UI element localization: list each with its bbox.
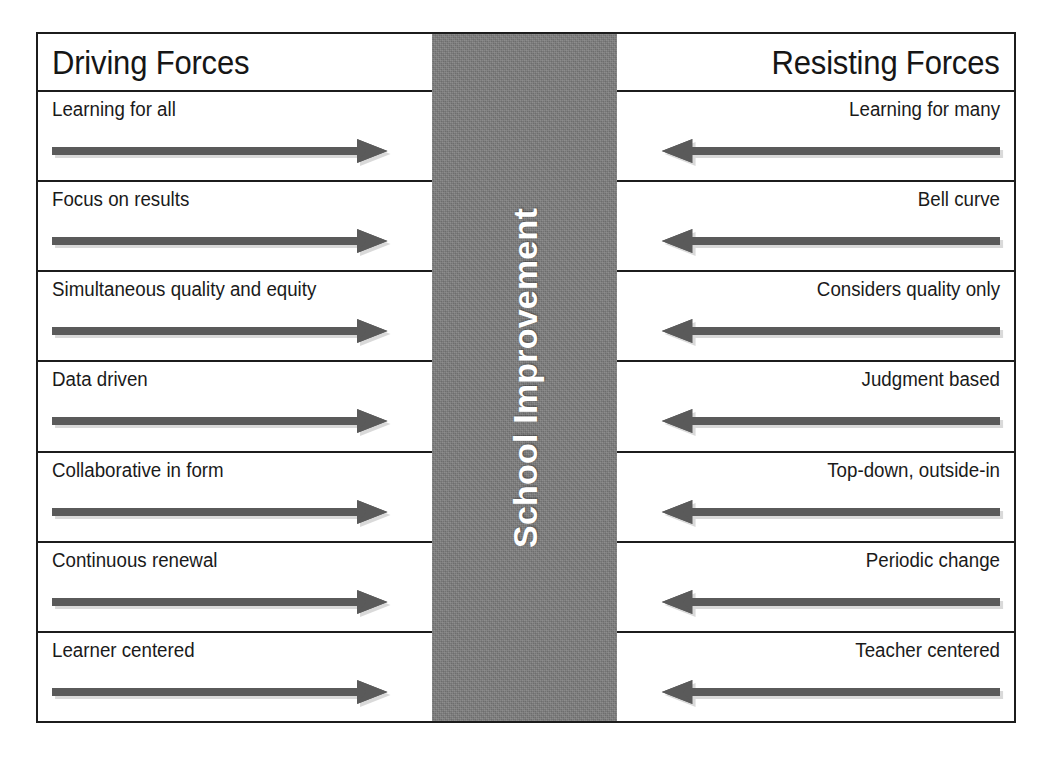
arrow-right-icon	[52, 226, 418, 260]
resisting-force-label: Bell curve	[646, 188, 1000, 210]
driving-forces-header: Driving Forces	[38, 34, 432, 92]
resisting-force-row: Teacher centered	[617, 633, 1014, 721]
force-field-diagram: Driving Forces Learning for all Focus on…	[36, 32, 1016, 723]
arrow-right-icon	[52, 406, 418, 440]
resisting-force-row: Top-down, outside-in	[617, 453, 1014, 543]
resisting-force-row: Bell curve	[617, 182, 1014, 272]
resisting-forces-column: Resisting Forces Learning for many Bell …	[617, 34, 1014, 721]
center-band-label: School Improvement	[505, 208, 544, 548]
resisting-force-row: Periodic change	[617, 543, 1014, 633]
resisting-force-label: Teacher centered	[646, 639, 1000, 661]
driving-force-label: Learner centered	[52, 639, 403, 661]
resisting-force-label: Learning for many	[646, 98, 1000, 120]
driving-force-row: Learning for all	[38, 92, 432, 182]
resisting-force-label: Top-down, outside-in	[646, 459, 1000, 481]
driving-force-label: Continuous renewal	[52, 549, 403, 571]
driving-forces-column: Driving Forces Learning for all Focus on…	[38, 34, 432, 721]
driving-force-label: Simultaneous quality and equity	[52, 278, 403, 300]
arrow-left-icon	[631, 136, 1000, 170]
driving-force-row: Data driven	[38, 362, 432, 452]
driving-force-row: Continuous renewal	[38, 543, 432, 633]
arrow-right-icon	[52, 316, 418, 350]
resisting-force-label: Judgment based	[646, 368, 1000, 390]
arrow-left-icon	[631, 316, 1000, 350]
driving-force-row: Simultaneous quality and equity	[38, 272, 432, 362]
arrow-right-icon	[52, 497, 418, 531]
arrow-left-icon	[631, 406, 1000, 440]
driving-force-row: Learner centered	[38, 633, 432, 721]
resisting-force-label: Periodic change	[646, 549, 1000, 571]
resisting-force-label: Considers quality only	[646, 278, 1000, 300]
resisting-force-row: Learning for many	[617, 92, 1014, 182]
arrow-right-icon	[52, 677, 418, 711]
arrow-right-icon	[52, 136, 418, 170]
driving-force-label: Focus on results	[52, 188, 403, 210]
center-band: School Improvement	[432, 34, 617, 721]
driving-force-row: Focus on results	[38, 182, 432, 272]
resisting-force-row: Considers quality only	[617, 272, 1014, 362]
diagram-canvas: Driving Forces Learning for all Focus on…	[0, 0, 1047, 761]
driving-force-label: Data driven	[52, 368, 403, 390]
arrow-left-icon	[631, 587, 1000, 621]
driving-force-label: Collaborative in form	[52, 459, 403, 481]
driving-force-row: Collaborative in form	[38, 453, 432, 543]
arrow-left-icon	[631, 226, 1000, 260]
resisting-forces-header: Resisting Forces	[617, 34, 1014, 92]
resisting-forces-header-label: Resisting Forces	[772, 46, 1000, 79]
arrow-left-icon	[631, 677, 1000, 711]
driving-forces-header-label: Driving Forces	[52, 46, 249, 79]
driving-force-label: Learning for all	[52, 98, 403, 120]
arrow-right-icon	[52, 587, 418, 621]
arrow-left-icon	[631, 497, 1000, 531]
resisting-force-row: Judgment based	[617, 362, 1014, 452]
